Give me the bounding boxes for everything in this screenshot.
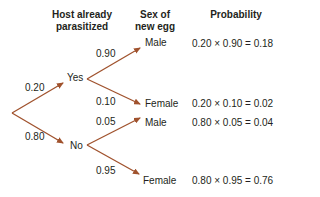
result-yes-male: 0.20 × 0.90 = 0.18: [192, 38, 273, 50]
result-no-female: 0.80 × 0.95 = 0.76: [192, 175, 273, 187]
node-yes: Yes: [67, 72, 83, 84]
node-female-upper: Female: [145, 98, 178, 110]
prob-yes-female: 0.10: [96, 96, 115, 108]
header-probability-text: Probability: [196, 9, 276, 21]
node-male-top: Male: [145, 37, 167, 49]
result-no-male: 0.80 × 0.05 = 0.04: [192, 117, 273, 129]
header-sex-line2: new egg: [132, 21, 178, 33]
header-probability: Probability: [196, 9, 276, 21]
header-host: Host already parasitized: [44, 9, 120, 33]
node-female-bottom: Female: [143, 175, 176, 187]
node-no: No: [70, 140, 83, 152]
prob-yes-male: 0.90: [96, 48, 115, 60]
prob-no-female: 0.95: [96, 165, 115, 177]
node-male-lower: Male: [145, 117, 167, 129]
header-host-line2: parasitized: [44, 21, 120, 33]
result-yes-female: 0.20 × 0.10 = 0.02: [192, 98, 273, 110]
header-host-line1: Host already: [44, 9, 120, 21]
header-sex: Sex of new egg: [132, 9, 178, 33]
prob-no-male: 0.05: [96, 116, 115, 128]
prob-root-yes: 0.20: [25, 82, 44, 94]
header-sex-line1: Sex of: [132, 9, 178, 21]
prob-root-no: 0.80: [25, 131, 44, 143]
